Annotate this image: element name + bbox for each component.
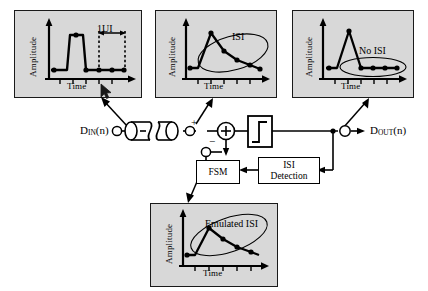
waveform-trace xyxy=(51,35,125,70)
callout-arrows xyxy=(101,97,369,203)
adder-minus-input-sign: − xyxy=(209,135,215,147)
mouse-pointer xyxy=(100,83,113,100)
panel-channel-isi-ylabel: Amplitude xyxy=(167,37,177,77)
input-label-sub: IN xyxy=(88,128,96,137)
block-fsm-label: FSM xyxy=(196,167,240,178)
panel-output-no-isi-ylabel: Amplitude xyxy=(304,37,314,77)
output-tap xyxy=(330,126,350,136)
panel-emulated-isi: Amplitude Time Emulated ISI xyxy=(150,203,278,287)
panel-input-eye-xlabel: Time xyxy=(67,81,86,91)
panel-channel-isi-xlabel: Time xyxy=(204,81,223,91)
emulated-isi-label: Emulated ISI xyxy=(205,218,258,229)
panel-output-no-isi: Amplitude Time No ISI xyxy=(292,10,414,98)
panel-input-eye: Amplitude Time 1UI xyxy=(14,10,142,98)
signal-wires xyxy=(117,128,365,134)
slicer-threshold xyxy=(248,116,272,147)
input-label-tail: (n) xyxy=(96,124,109,136)
emulated-isi-highlight-ellipse xyxy=(186,206,273,264)
figure-root: Amplitude Time 1UI xyxy=(0,0,428,291)
sample-markers xyxy=(51,32,126,72)
output-label-tail: (n) xyxy=(393,124,406,136)
input-node xyxy=(112,126,121,135)
output-label-main: D xyxy=(370,124,378,136)
block-isi-detection-label-line2: Detection xyxy=(271,171,308,181)
no-isi-label: No ISI xyxy=(359,45,386,56)
block-isi-detection-label-line1: ISI xyxy=(283,160,295,170)
unit-interval-marker xyxy=(98,30,126,73)
isi-label: ISI xyxy=(232,31,244,42)
output-signal-label: DOUT(n) xyxy=(370,124,406,137)
panel-input-eye-ylabel: Amplitude xyxy=(28,37,38,77)
input-signal-label: DIN(n) xyxy=(80,124,109,137)
summing-junction xyxy=(218,123,235,140)
output-label-sub: OUT xyxy=(378,128,393,137)
adder-plus-input-sign: + xyxy=(191,116,197,128)
input-label-main: D xyxy=(80,124,88,136)
panel-output-no-isi-xlabel: Time xyxy=(341,81,360,91)
panel-channel-isi: Amplitude Time ISI xyxy=(155,10,277,98)
panel-emulated-isi-ylabel: Amplitude xyxy=(164,224,174,264)
unit-interval-label: 1UI xyxy=(97,23,113,34)
axes xyxy=(45,18,136,82)
transmission-channel xyxy=(125,122,178,140)
panel-emulated-isi-xlabel: Time xyxy=(203,268,222,278)
